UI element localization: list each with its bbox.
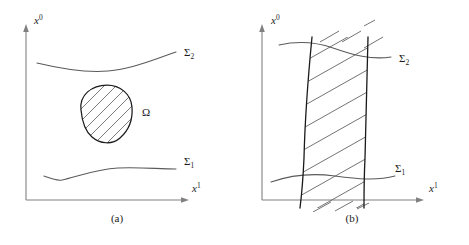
- curve-sigma1-b: [271, 175, 395, 182]
- worldline-right: [364, 37, 368, 208]
- axis-vertical-a: [23, 24, 29, 200]
- caption-panel-a: (a): [0, 212, 234, 224]
- axis-vertical-arrowhead-a: [23, 24, 29, 32]
- label-sigma2-b: Σ2: [399, 52, 409, 67]
- label-sigma1-a: Σ1: [184, 155, 194, 170]
- worldline-left: [300, 37, 312, 208]
- label-sigma2-a: Σ2: [184, 46, 194, 61]
- axis-label-x0-a: x0: [33, 13, 43, 26]
- label-sigma1-b: Σ1: [395, 162, 405, 177]
- curve-sigma1-a: [44, 168, 176, 181]
- region-tube-hatch-overshoot-bottom: [313, 201, 369, 212]
- axis-vertical-arrowhead-b: [259, 24, 265, 32]
- label-omega: Ω: [142, 106, 150, 118]
- axis-vertical-b: [259, 24, 265, 200]
- panel-b: x0 x1 Σ2 Σ1 (b): [235, 0, 469, 245]
- axis-horizontal-arrowhead-b: [416, 197, 424, 203]
- figure-container: x0 x1 Σ2 Σ1 Ω (a): [0, 0, 469, 245]
- axis-label-x0-b: x0: [270, 13, 280, 26]
- region-tube-hatch-overshoot-top: [320, 20, 383, 48]
- axis-horizontal-arrowhead-a: [181, 197, 189, 203]
- axis-label-x1-a: x1: [191, 181, 201, 194]
- caption-panel-b: (b): [235, 212, 469, 224]
- panel-b-drawing: x0 x1 Σ2 Σ1: [235, 0, 469, 212]
- curve-sigma2-a: [37, 52, 176, 72]
- axis-label-x1-b: x1: [428, 181, 438, 194]
- panel-a-drawing: x0 x1 Σ2 Σ1 Ω: [0, 0, 234, 212]
- axis-horizontal-b: [262, 197, 424, 203]
- panel-a: x0 x1 Σ2 Σ1 Ω (a): [0, 0, 234, 245]
- axis-horizontal-a: [26, 197, 189, 203]
